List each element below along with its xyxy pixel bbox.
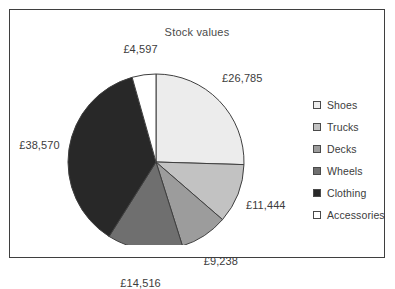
pie-slice-value-label: £14,516 xyxy=(120,277,160,289)
legend-swatch-icon xyxy=(313,101,321,109)
legend-item[interactable]: Accessories xyxy=(313,204,395,226)
chart-title: Stock values xyxy=(10,26,384,38)
legend-item-label: Trucks xyxy=(327,121,359,133)
pie-slice-value-label: £38,570 xyxy=(19,139,59,151)
legend-item-label: Wheels xyxy=(327,165,363,177)
legend-swatch-icon xyxy=(313,189,321,197)
legend-swatch-icon xyxy=(313,145,321,153)
pie-slice-value-label: £9,238 xyxy=(204,255,238,267)
legend-item[interactable]: Wheels xyxy=(313,160,395,182)
pie-slice-value-label: £4,597 xyxy=(123,43,157,55)
legend-item-label: Accessories xyxy=(327,209,385,221)
pie-chart-svg xyxy=(20,65,290,245)
legend-item[interactable]: Shoes xyxy=(313,94,395,116)
pie-chart: £26,785£11,444£9,238£14,516£38,570£4,597 xyxy=(20,65,290,245)
legend-item[interactable]: Clothing xyxy=(313,182,395,204)
legend-item-label: Clothing xyxy=(327,187,366,199)
chart-legend: ShoesTrucksDecksWheelsClothingAccessorie… xyxy=(313,94,395,226)
legend-swatch-icon xyxy=(313,211,321,219)
pie-slice[interactable] xyxy=(156,74,244,165)
pie-slice-value-label: £26,785 xyxy=(222,72,262,84)
pie-slice-value-label: £11,444 xyxy=(246,199,286,211)
legend-item[interactable]: Trucks xyxy=(313,116,395,138)
legend-swatch-icon xyxy=(313,167,321,175)
legend-swatch-icon xyxy=(313,123,321,131)
legend-item-label: Shoes xyxy=(327,99,357,111)
chart-frame: Stock values £26,785£11,444£9,238£14,516… xyxy=(9,9,385,258)
legend-item[interactable]: Decks xyxy=(313,138,395,160)
pie-slices xyxy=(68,74,244,245)
legend-item-label: Decks xyxy=(327,143,357,155)
